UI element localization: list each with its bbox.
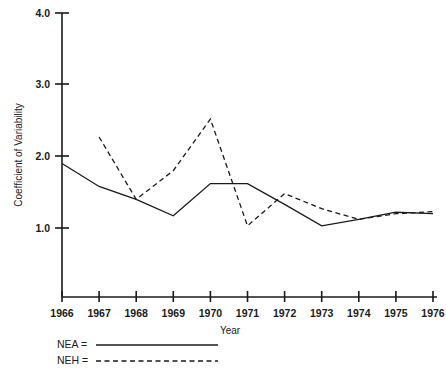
x-tick-label-1968: 1968 [125,307,149,319]
x-tick-label-1976: 1976 [421,307,445,319]
chart-legend: NEA = NEH = [57,338,218,366]
series-line-neh [99,119,433,226]
y-axis-title: Coefficient of Variability [13,103,24,207]
y-tick-label-2: 2.0 [35,150,50,162]
y-tick-label-1: 1.0 [35,222,50,234]
x-tick-label-1972: 1972 [273,307,297,319]
x-tick-label-1975: 1975 [384,307,408,319]
x-tick-label-1973: 1973 [310,307,334,319]
x-tick-label-1971: 1971 [236,307,260,319]
x-axis-tick-labels: 1966 1967 1968 1969 1970 1971 1972 1973 … [50,307,445,319]
x-tick-label-1966: 1966 [50,307,74,319]
legend-label-neh: NEH = [57,354,88,366]
x-tick-label-1970: 1970 [199,307,223,319]
legend-label-nea: NEA = [57,338,87,350]
y-tick-label-4: 4.0 [35,7,50,19]
x-tick-label-1969: 1969 [162,307,186,319]
x-tick-label-1974: 1974 [347,307,371,319]
chart-container: 4.0 3.0 2.0 1.0 1966 1967 1968 1969 1970 [0,0,446,370]
x-axis-title: Year [220,325,241,336]
y-tick-label-3: 3.0 [35,78,50,90]
x-tick-label-1967: 1967 [87,307,111,319]
y-axis-tick-labels: 4.0 3.0 2.0 1.0 [35,7,50,234]
coefficient-of-variability-line-chart: 4.0 3.0 2.0 1.0 1966 1967 1968 1969 1970 [0,0,446,370]
